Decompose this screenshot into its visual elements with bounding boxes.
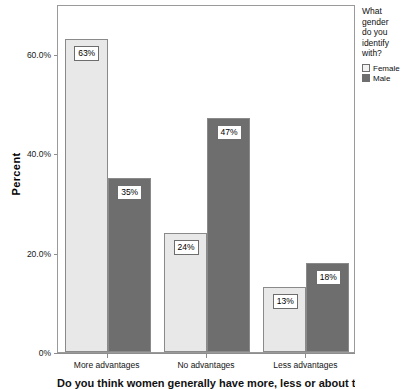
x-category-label: More advantages [57,360,157,370]
y-axis-ticks: 0%20.0%40.0%60.0% [3,0,51,386]
legend-title-line: What [362,6,414,17]
bar-value-label: 47% [217,125,242,140]
legend-title-line: do you [362,27,414,38]
legend-title: Whatgenderdo youidentifywith? [362,6,414,59]
legend-swatch-icon [362,64,370,72]
y-tick-label: 0% [5,349,51,357]
y-tick-label: 20.0% [5,250,51,258]
legend-item-female[interactable]: Female [362,64,414,73]
plot-area: 63%35%24%47%13%18% [57,5,355,353]
legend-label: Male [373,74,390,83]
bar-value-label: 35% [117,185,142,200]
bar-value-label: 13% [273,294,298,309]
x-category-label: Less advantages [255,360,355,370]
x-category-label: No advantages [156,360,256,370]
bars-layer: 63%35%24%47%13%18% [58,6,354,352]
bar-value-label: 18% [316,270,341,285]
legend: Whatgenderdo youidentifywith? FemaleMale [362,6,414,84]
x-tick-mark [107,353,108,358]
x-axis-title: Do you think women generally have more, … [57,377,355,389]
bar-female-0 [65,39,108,352]
x-tick-mark [206,353,207,358]
legend-items: FemaleMale [362,64,414,83]
x-tick-mark [305,353,306,358]
legend-title-line: with? [362,48,414,59]
legend-title-line: identify [362,38,414,49]
bar-value-label: 24% [174,240,199,255]
y-tick-label: 40.0% [5,150,51,158]
legend-swatch-icon [362,74,370,82]
legend-title-line: gender [362,17,414,28]
bar-male-1 [207,118,250,352]
bar-male-0 [108,178,151,352]
y-tick-label: 60.0% [5,51,51,59]
legend-label: Female [373,64,400,73]
bar-value-label: 63% [74,46,99,61]
legend-item-male[interactable]: Male [362,74,414,83]
